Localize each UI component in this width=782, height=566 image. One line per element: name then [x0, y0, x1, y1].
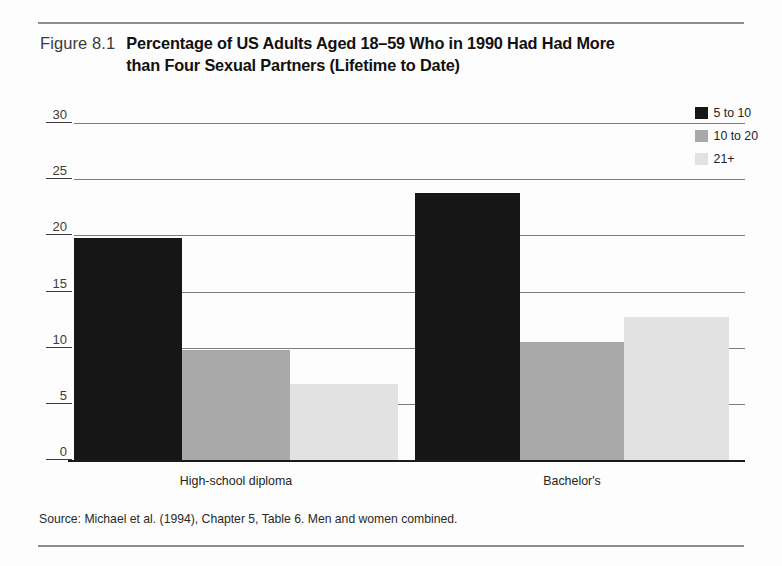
- y-axis-tick-rule-30: [46, 122, 72, 123]
- y-axis-tick-label-30: 30: [53, 108, 67, 121]
- gridline-20: [74, 235, 745, 236]
- x-axis-baseline: [68, 460, 745, 462]
- y-axis-tick-rule-25: [46, 178, 72, 179]
- y-axis-tick-label-15: 15: [53, 277, 67, 290]
- figure-title-line-1: Percentage of US Adults Aged 18–59 Who i…: [126, 34, 614, 52]
- figure-header: Figure 8.1 Percentage of US Adults Aged …: [40, 33, 740, 76]
- y-axis-tick-label-5: 5: [60, 389, 67, 402]
- gridline-30: [74, 123, 745, 124]
- bar-2-1: [415, 193, 520, 460]
- x-axis-category-label-2: Bachelor's: [543, 474, 600, 488]
- gridline-25: [74, 179, 745, 180]
- bar-1-1: [74, 238, 182, 460]
- figure-title-line-2: than Four Sexual Partners (Lifetime to D…: [126, 56, 460, 74]
- y-axis-tick-rule-0: [46, 459, 72, 460]
- y-axis-tick-label-0: 0: [60, 445, 67, 458]
- y-axis-tick-rule-15: [46, 291, 72, 292]
- top-divider: [38, 22, 744, 24]
- y-axis-tick-rule-10: [46, 347, 72, 348]
- y-axis-tick-rule-20: [46, 234, 72, 235]
- x-axis-category-label-1: High-school diploma: [180, 474, 292, 488]
- bar-2-3: [624, 317, 729, 460]
- figure-number: Figure 8.1: [40, 33, 115, 53]
- figure-page: Figure 8.1 Percentage of US Adults Aged …: [0, 0, 782, 566]
- y-axis-tick-label-25: 25: [53, 164, 67, 177]
- y-axis-tick-label-20: 20: [53, 220, 67, 233]
- bar-chart-plot-area: 051015202530High-school diplomaBachelor'…: [74, 110, 745, 462]
- bottom-divider: [38, 545, 744, 547]
- y-axis-tick-label-10: 10: [53, 333, 67, 346]
- bar-2-2: [520, 342, 625, 460]
- figure-title: Percentage of US Adults Aged 18–59 Who i…: [126, 33, 614, 76]
- y-axis-tick-rule-5: [46, 403, 72, 404]
- source-note: Source: Michael et al. (1994), Chapter 5…: [39, 512, 457, 526]
- bar-1-2: [182, 350, 290, 460]
- bar-1-3: [290, 384, 398, 460]
